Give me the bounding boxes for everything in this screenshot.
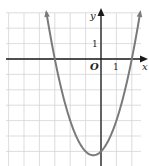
- parabola-curve: [46, 13, 140, 155]
- parabola-chart: y x O 1 1: [0, 0, 149, 166]
- curve-left-arrow-icon: [44, 10, 50, 17]
- y-axis-label: y: [89, 10, 96, 21]
- x-tick-label-1: 1: [113, 62, 119, 72]
- curve-right-arrow-icon: [137, 10, 143, 17]
- origin-label: O: [90, 61, 99, 72]
- x-axis-label: x: [142, 61, 148, 72]
- y-axis-arrow-icon: [98, 8, 105, 16]
- y-tick-label-1: 1: [92, 39, 98, 49]
- grid: [6, 13, 141, 166]
